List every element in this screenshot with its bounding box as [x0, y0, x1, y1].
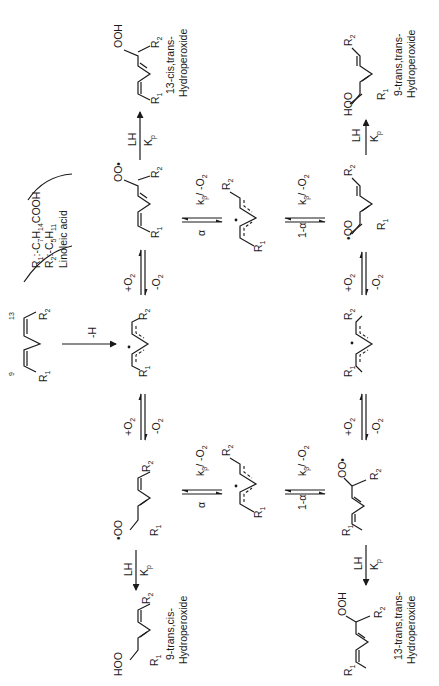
svg-text:R2: R2 — [149, 36, 163, 48]
lh-kp-arrow-9-trans-cis: LH Kp — [122, 550, 153, 590]
product-13-cis-trans-hydroperoxide: OOH R1 R2 13-cis,trans- Hydroperoxide — [112, 24, 189, 104]
pentadienyl-radical-right: R1 R2 — [342, 308, 372, 377]
lh-kp-arrow-9-trans-trans: LH Kp — [350, 120, 383, 155]
svg-text:R1: R1 — [340, 524, 354, 536]
svg-text:R2: R2 — [342, 164, 356, 176]
product-9-trans-trans-hydroperoxide: HOO R1 R2 9-trans,trans- Hydroperoxide — [342, 30, 417, 116]
svg-text:R1: R1 — [137, 365, 151, 377]
svg-text:LH: LH — [352, 557, 364, 570]
legend-block: R1:-C7H14COOH R2:-C5H11 Linoleic acid — [24, 174, 72, 282]
svg-text:α: α — [195, 502, 207, 508]
svg-text:kβ/ -O2: kβ/ -O2 — [194, 445, 209, 476]
svg-text:R1: R1 — [148, 654, 162, 666]
legend-r2: R2:-C5H11 — [43, 224, 57, 268]
legend-name: Linoleic acid — [57, 210, 69, 268]
o2-equilibrium-right-top: +O2 -O2 — [342, 252, 384, 295]
svg-text:9-trans,trans-: 9-trans,trans- — [392, 33, 404, 96]
svg-text:Kp: Kp — [368, 131, 383, 142]
svg-text:R1: R1 — [149, 226, 163, 238]
position-13-label: 13 — [8, 312, 15, 320]
svg-text:α: α — [195, 230, 207, 236]
svg-text:-O2: -O2 — [370, 274, 384, 290]
svg-text:LH: LH — [350, 129, 362, 142]
svg-text:LH: LH — [122, 563, 134, 576]
svg-text:13-trans,trans-: 13-trans,trans- — [392, 591, 404, 660]
svg-text:R2: R2 — [137, 308, 151, 320]
beta-scission-equilibrium-bottom: α kβ/ -O2 — [182, 445, 222, 508]
svg-text:Hydroperoxide: Hydroperoxide — [405, 30, 417, 98]
svg-text:R1: R1 — [148, 524, 162, 536]
svg-text:R2: R2 — [342, 34, 356, 46]
beta-scission-equilibrium-top: α kβ/ -O2 — [182, 174, 222, 236]
svg-text:R2: R2 — [342, 308, 356, 320]
pentadienyl-radical-center: R1 R2 — [128, 308, 151, 377]
linoleic-acid-structure: 9 13 R1 R2 — [8, 308, 51, 382]
svg-text:R1: R1 — [252, 240, 266, 252]
start-r1: R1 — [37, 370, 51, 382]
reaction-scheme: R1:-C7H14COOH R2:-C5H11 Linoleic acid 9 … — [0, 0, 439, 686]
svg-text:R1: R1 — [342, 365, 356, 377]
o2-equilibrium-right-bottom: +O2 -O2 — [342, 394, 384, 440]
o2-equilibrium-up: +O2 -O2 — [122, 250, 164, 295]
position-9-label: 9 — [8, 372, 15, 376]
svg-text:kβ/ -O2: kβ/ -O2 — [194, 174, 209, 205]
svg-text:OOH: OOH — [112, 24, 124, 48]
pentadienyl-radical-top: R1 R2 — [220, 178, 266, 252]
start-r2: R2 — [37, 308, 51, 320]
beta-scission-equilibrium-top-right: 1-α kβ/ -O2 — [285, 174, 325, 238]
svg-text:kβ/ -O2: kβ/ -O2 — [296, 445, 311, 476]
svg-text:9-trans,cis-: 9-trans,cis- — [164, 608, 176, 660]
svg-text:-O2: -O2 — [150, 418, 164, 434]
svg-text:LH: LH — [126, 133, 138, 146]
abstraction-label: -H — [86, 327, 98, 338]
svg-text:Kp: Kp — [138, 565, 153, 576]
svg-text:Kp: Kp — [368, 559, 383, 570]
svg-text:•OO: •OO — [112, 520, 124, 540]
peroxyl-9-trans-cis: •OO R1 R2 — [112, 460, 162, 540]
product-label-line2: Hydroperoxide — [177, 29, 189, 97]
svg-text:R2: R2 — [140, 592, 154, 604]
svg-text:Hydroperoxide: Hydroperoxide — [177, 596, 189, 664]
product-label-line1: 13-cis,trans- — [164, 36, 176, 94]
svg-text:R2: R2 — [220, 178, 234, 190]
product-13-trans-trans-hydroperoxide: OOH R1 R2 13-trans,trans- Hydroperoxide — [336, 591, 417, 676]
svg-text:+O2: +O2 — [122, 418, 136, 436]
lh-kp-arrow-13-cis-trans: LH Kp — [126, 112, 157, 160]
svg-text:R2: R2 — [140, 460, 154, 472]
svg-text:-O2: -O2 — [150, 274, 164, 290]
svg-text:R2: R2 — [368, 468, 382, 480]
svg-text:1-α: 1-α — [296, 495, 308, 510]
svg-text:•OO: •OO — [342, 220, 354, 240]
svg-text:R1: R1 — [375, 88, 389, 100]
beta-scission-equilibrium-bottom-right: 1-α kβ/ -O2 — [285, 445, 325, 510]
peroxyl-13-trans-trans: OO• R1 R2 — [336, 458, 382, 536]
svg-text:HOO: HOO — [112, 652, 124, 676]
svg-text:R1: R1 — [375, 218, 389, 230]
svg-text:R2: R2 — [149, 166, 163, 178]
h-abstraction-arrow: -H — [62, 327, 116, 344]
peroxyl-13-cis-trans: OO• R1 R2 — [112, 162, 163, 238]
svg-text:R1: R1 — [342, 664, 356, 676]
svg-text:+O2: +O2 — [122, 274, 136, 292]
peroxyl-9-trans-trans: •OO R1 R2 — [342, 164, 389, 240]
svg-text:Kp: Kp — [142, 135, 157, 146]
svg-text:R2: R2 — [220, 444, 234, 456]
svg-text:Hydroperoxide: Hydroperoxide — [405, 596, 417, 664]
legend-r1: R1:-C7H14COOH — [30, 192, 44, 268]
svg-text:OOH: OOH — [336, 592, 348, 616]
svg-text:-O2: -O2 — [370, 418, 384, 434]
radical-dot — [128, 346, 131, 349]
o2-equilibrium-down: +O2 -O2 — [122, 394, 164, 440]
pentadienyl-radical-bottom: R1 R2 — [220, 444, 266, 518]
svg-text:+O2: +O2 — [342, 418, 356, 436]
svg-text:R1: R1 — [252, 506, 266, 518]
svg-text:OO•: OO• — [112, 162, 124, 182]
lh-kp-arrow-13-trans-trans: LH Kp — [352, 545, 383, 585]
svg-text:1-α: 1-α — [296, 223, 308, 238]
svg-text:kβ/ -O2: kβ/ -O2 — [296, 174, 311, 205]
product-9-trans-cis-hydroperoxide: HOO R1 R2 9-trans,cis- Hydroperoxide — [112, 592, 189, 676]
svg-text:R2: R2 — [372, 606, 386, 618]
svg-text:OO•: OO• — [336, 458, 348, 478]
svg-text:R1: R1 — [149, 92, 163, 104]
svg-text:HOO: HOO — [342, 92, 354, 116]
